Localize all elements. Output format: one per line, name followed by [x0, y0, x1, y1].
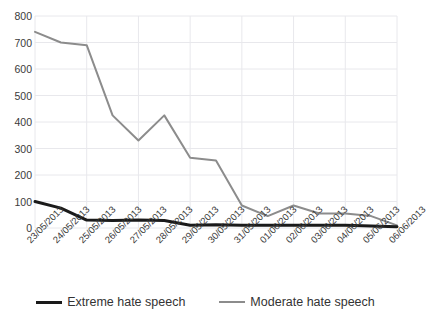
y-axis-tick-label: 400 — [2, 117, 32, 127]
y-axis-tick-label: 300 — [2, 144, 32, 154]
y-axis-tick-label: 200 — [2, 170, 32, 180]
plot-svg — [0, 0, 411, 240]
y-axis-tick-label: 500 — [2, 91, 32, 101]
x-axis-labels: 23/05/201324/05/201325/05/201326/05/2013… — [0, 232, 411, 292]
y-axis-tick-label: 700 — [2, 38, 32, 48]
plot-area — [0, 0, 411, 240]
y-axis-tick-label: 600 — [2, 64, 32, 74]
legend-line-swatch-icon — [219, 301, 245, 303]
legend-item-extreme[interactable]: Extreme hate speech — [36, 295, 185, 309]
chart-legend: Extreme hate speechModerate hate speech — [0, 289, 411, 315]
legend-label: Extreme hate speech — [67, 295, 185, 309]
legend-label: Moderate hate speech — [250, 295, 374, 309]
y-axis-tick-label: 100 — [2, 197, 32, 207]
y-axis-labels: 0100200300400500600700800 — [0, 0, 32, 240]
y-axis-tick-label: 800 — [2, 11, 32, 21]
series-line-moderate — [35, 32, 397, 225]
legend-item-moderate[interactable]: Moderate hate speech — [219, 295, 374, 309]
legend-line-swatch-icon — [36, 301, 62, 304]
